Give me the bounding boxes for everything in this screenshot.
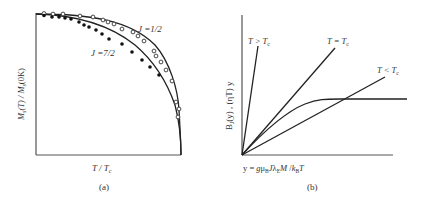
caption-a: (a)	[99, 182, 109, 192]
label-t-greater-tc: T > Tc	[248, 36, 270, 47]
panel-b: T > Tc T = Tc T < Tc BJ(y) , (ηT) y y = …	[224, 15, 407, 192]
figure: J =1/2 J =7/2 Ms(T) / Ms(0K) T / Tc (a) …	[0, 0, 422, 202]
curve-j-7-2	[36, 14, 181, 155]
label-j-7-2: J =7/2	[91, 48, 115, 58]
label-t-less-tc: T < Tc	[377, 65, 399, 76]
y-axis-label: BJ(y) , (ηT) y	[224, 81, 235, 130]
y-axis-label: Ms(T) / Ms(0K)	[16, 68, 27, 121]
panel-a: J =1/2 J =7/2 Ms(T) / Ms(0K) T / Tc (a)	[16, 12, 181, 192]
curve-j-1-2	[36, 14, 181, 155]
label-j-1-2: J =1/2	[138, 24, 162, 34]
x-axis-label: y = gμBJλEM /kBT	[243, 163, 305, 174]
caption-b: (b)	[307, 182, 318, 192]
x-axis-label: T / Tc	[92, 163, 112, 174]
line-t-less-tc	[242, 77, 385, 155]
label-t-equal-tc: T = Tc	[327, 36, 349, 47]
